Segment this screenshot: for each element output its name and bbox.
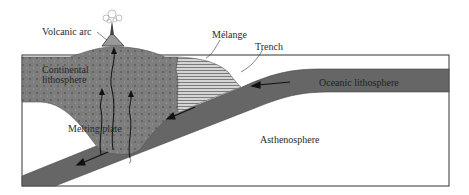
label-asthenosphere: Asthenosphere	[260, 134, 319, 145]
label-volcanic-arc: Volcanic arc	[42, 26, 92, 37]
label-lithosphere: lithosphere	[42, 74, 86, 85]
label-melange: Mélange	[212, 29, 247, 40]
label-melting-plate: Melting plate	[68, 123, 122, 134]
volcano	[102, 34, 124, 46]
label-trench: Trench	[255, 41, 283, 52]
eruption-cloud-icon	[103, 10, 122, 23]
label-oceanic-lithosphere: Oceanic lithosphere	[319, 77, 399, 88]
